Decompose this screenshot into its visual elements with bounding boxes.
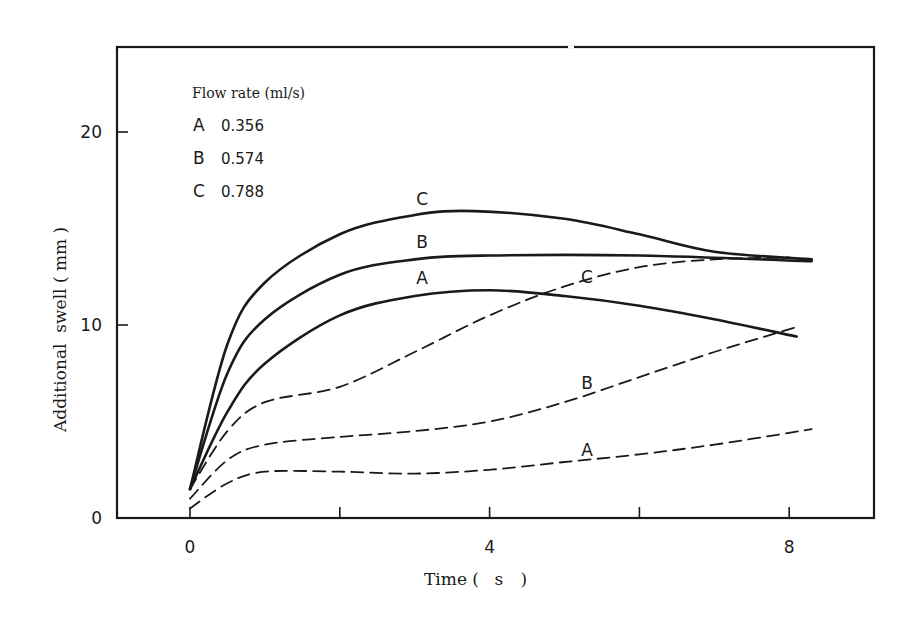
curve-label: B: [416, 232, 428, 252]
series-b-dashed: [190, 327, 797, 499]
x-tick-label: 4: [484, 537, 495, 557]
series-a-solid: [190, 290, 797, 489]
x-axis-label: Time ( s ): [424, 569, 527, 589]
y-axis-label: Additional swell ( mm ): [50, 227, 70, 433]
curve-labels: CBACBA: [416, 189, 593, 460]
y-tick-label: 20: [80, 122, 102, 142]
curve-label: A: [416, 268, 428, 288]
series-c-dashed: [190, 257, 789, 489]
legend-value: 0.788: [221, 183, 264, 201]
legend: Flow rate (ml/s)A0.356B0.574C0.788: [192, 85, 305, 201]
y-tick-label: 0: [91, 508, 102, 528]
axis-ticks: 04801020: [80, 122, 794, 557]
legend-key: A: [193, 115, 205, 135]
legend-key: B: [193, 148, 205, 168]
legend-value: 0.356: [221, 117, 264, 135]
x-tick-label: 0: [185, 537, 196, 557]
series-lines: [190, 211, 812, 508]
curve-label: B: [581, 373, 593, 393]
line-chart: 04801020 CBACBA Flow rate (ml/s)A0.356B0…: [0, 0, 917, 621]
curve-label: C: [581, 267, 593, 287]
curve-label: A: [581, 440, 593, 460]
y-tick-label: 10: [80, 315, 102, 335]
legend-value: 0.574: [221, 150, 264, 168]
curve-label: C: [416, 189, 428, 209]
legend-key: C: [193, 181, 205, 201]
legend-title: Flow rate (ml/s): [192, 85, 305, 101]
x-tick-label: 8: [784, 537, 795, 557]
